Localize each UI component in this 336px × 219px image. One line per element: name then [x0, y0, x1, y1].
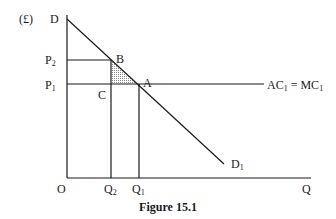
demand-end-label: D1	[231, 158, 244, 174]
point-a-label: A	[143, 77, 152, 89]
x-axis-label: Q	[302, 183, 311, 195]
point-b-label: B	[116, 53, 124, 65]
mc-sub: 1	[319, 84, 323, 93]
d1-sub: 1	[240, 163, 244, 172]
eq-text: =	[288, 78, 301, 92]
demand-curve	[67, 19, 224, 164]
figure-caption: Figure 15.1	[0, 200, 336, 215]
diagram-canvas	[0, 0, 336, 219]
p2-base: P	[45, 53, 52, 67]
p1-base: P	[45, 78, 52, 92]
mc-text: MC	[300, 78, 319, 92]
p2-label: P2	[45, 54, 56, 70]
d1-base: D	[231, 157, 240, 171]
p1-sub: 1	[52, 84, 56, 93]
q1-sub: 1	[141, 188, 145, 197]
p1-label: P1	[45, 79, 56, 95]
origin-label: O	[57, 183, 66, 195]
y-axis-unit: (£)	[19, 13, 33, 25]
ac-text: AC	[267, 78, 284, 92]
p2-sub: 2	[52, 59, 56, 68]
ac-mc-label: AC1 = MC1	[267, 79, 323, 95]
q2-sub: 2	[113, 188, 117, 197]
q1-label: Q1	[132, 183, 145, 199]
q2-label: Q2	[104, 183, 117, 199]
q2-base: Q	[104, 182, 113, 196]
point-c-label: C	[98, 89, 106, 101]
y-axis-top-label: D	[50, 13, 59, 25]
q1-base: Q	[132, 182, 141, 196]
